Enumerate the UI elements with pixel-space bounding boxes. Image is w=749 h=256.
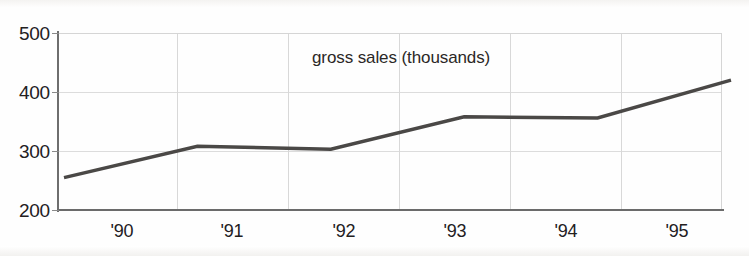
- y-tick-label-400: 400: [2, 83, 50, 102]
- y-axis-labels: 500 400 300 200: [0, 0, 50, 256]
- x-tick-label-91: '91: [202, 222, 262, 240]
- y-tick-mark-200: [52, 210, 59, 211]
- x-tick-label-95: '95: [647, 222, 707, 240]
- x-tick-label-90: '90: [92, 222, 152, 240]
- y-tick-label-500: 500: [2, 24, 50, 43]
- x-tick-label-94: '94: [536, 222, 596, 240]
- x-tick-label-92: '92: [314, 222, 374, 240]
- y-tick-label-200: 200: [2, 201, 50, 220]
- y-tick-label-300: 300: [2, 142, 50, 161]
- series-line: [64, 80, 731, 177]
- chart-title: gross sales (thousands): [312, 48, 490, 68]
- x-tick-label-93: '93: [425, 222, 485, 240]
- line-chart: 500 400 300 200 gross sales (thousands) …: [0, 0, 749, 256]
- chart-screenshot: 500 400 300 200 gross sales (thousands) …: [0, 0, 749, 256]
